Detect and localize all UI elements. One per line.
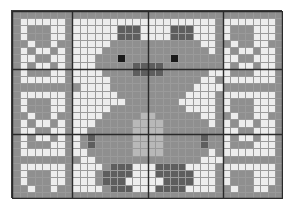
pattern-chart-frame — [11, 10, 282, 198]
chart-paper — [0, 0, 294, 208]
pattern-grid-canvas — [12, 11, 283, 199]
